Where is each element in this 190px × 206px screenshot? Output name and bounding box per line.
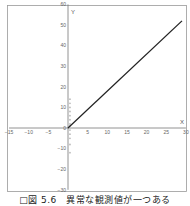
data-point: [69, 115, 71, 117]
figure-caption: □図 5.6 異常な観測値が一つある: [0, 193, 190, 206]
x-tick-label: 30: [183, 129, 189, 135]
x-tick-label: 10: [105, 129, 111, 135]
y-tick-label: 30: [60, 63, 66, 69]
tick-labels: −15−10−5510152025306050403020100−10−20−3…: [5, 1, 189, 192]
y-tick-label: −10: [58, 145, 67, 151]
x-tick-label: 15: [124, 129, 130, 135]
y-axis-label: Y: [71, 9, 75, 15]
axes: [9, 4, 186, 189]
data-point: [69, 133, 71, 135]
data-point: [69, 152, 71, 154]
data-point: [69, 102, 71, 104]
data-point: [69, 144, 71, 146]
plot-frame: [8, 6, 187, 192]
data-point: [69, 98, 71, 100]
fitted-line: [68, 21, 182, 128]
data-point: [69, 137, 71, 139]
y-tick-label: 60: [60, 1, 66, 7]
y-tick-label: 10: [60, 104, 66, 110]
x-tick-label: −15: [5, 129, 14, 135]
data-point: [69, 107, 71, 109]
data-point: [69, 129, 71, 131]
data-point: [69, 119, 71, 121]
y-tick-label: −30: [58, 187, 67, 192]
x-axis-label: X: [180, 119, 184, 125]
x-tick-label: −5: [45, 129, 51, 135]
y-tick-label: 20: [60, 84, 66, 90]
data-point: [69, 123, 71, 125]
data-point: [69, 111, 71, 113]
x-tick-label: 5: [86, 129, 89, 135]
x-tick-label: 25: [163, 129, 169, 135]
y-tick-label: 0: [63, 125, 66, 131]
x-tick-label: 20: [144, 129, 150, 135]
regression-line: [68, 21, 182, 128]
y-tick-label: 50: [60, 22, 66, 28]
scatter-chart: −15−10−5510152025306050403020100−10−20−3…: [0, 0, 190, 192]
x-tick-label: −10: [24, 129, 33, 135]
y-tick-label: 40: [60, 42, 66, 48]
y-tick-label: −20: [58, 166, 67, 172]
